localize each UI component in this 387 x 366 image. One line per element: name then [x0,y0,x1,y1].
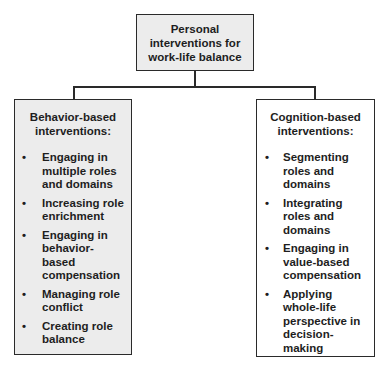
list-item: •Managing role conflict [15,288,131,315]
list-item: •Applying whole-life perspective in deci… [257,288,374,356]
root-node: Personal interventions for work-life bal… [136,14,254,71]
bullet-icon: • [22,320,26,334]
bullet-icon: • [265,151,269,165]
list-item: •Creating role balance [15,320,131,347]
left-branch-connector [73,86,75,99]
bullet-icon: • [265,197,269,211]
bullet-icon: • [22,229,26,243]
bullet-icon: • [265,288,269,302]
cognition-based-list: •Segmenting roles and domains •Integrati… [257,151,374,355]
bullet-icon: • [22,288,26,302]
list-item: •Engaging in behavior-based compensation [15,229,131,283]
bullet-icon: • [22,197,26,211]
list-item: •Segmenting roles and domains [257,151,374,192]
behavior-based-list: •Engaging in multiple roles and domains … [15,151,131,347]
cognition-based-heading: Cognition-based interventions: [257,110,374,138]
root-stem-connector [194,71,196,87]
bullet-icon: • [22,151,26,165]
list-item: •Integrating roles and domains [257,197,374,238]
cognition-based-node: Cognition-based interventions: •Segmenti… [256,99,375,357]
list-item: •Increasing role enrichment [15,197,131,224]
list-item: •Engaging in value-based compensation [257,242,374,283]
horizontal-connector [73,86,315,88]
behavior-based-node: Behavior-based interventions: •Engaging … [14,99,132,355]
right-branch-connector [314,86,316,99]
bullet-icon: • [265,242,269,256]
behavior-based-heading: Behavior-based interventions: [15,110,131,138]
root-node-title: Personal interventions for work-life bal… [148,22,241,64]
list-item: •Engaging in multiple roles and domains [15,151,131,192]
